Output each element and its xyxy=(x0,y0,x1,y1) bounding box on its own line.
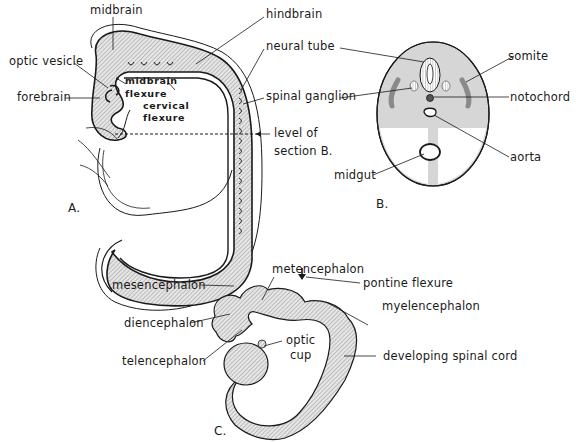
label-midgut: midgut xyxy=(334,170,376,182)
label-somite: somite xyxy=(508,51,548,63)
label-myelencephalon: myelencephalon xyxy=(382,301,480,313)
panel-b-cross-section xyxy=(340,42,514,186)
label-level-of-line1: level of xyxy=(274,128,318,140)
label-developing-spinal-cord: developing spinal cord xyxy=(383,351,517,363)
label-cervical-flexure-line1: cervical xyxy=(143,101,189,111)
label-optic-cup-line1: optic xyxy=(286,335,315,347)
label-telencephalon: telencephalon xyxy=(122,356,206,368)
label-aorta: aorta xyxy=(510,152,541,164)
diagram-canvas xyxy=(0,0,576,442)
label-midbrain-flexure-line2: flexure xyxy=(125,89,167,99)
label-diencephalon: diencephalon xyxy=(124,318,204,330)
label-midbrain-flexure-line1: midbrain xyxy=(125,76,178,86)
label-pontine-flexure: pontine flexure xyxy=(363,278,453,290)
label-level-of-line2: section B. xyxy=(274,146,333,158)
label-metencephalon: metencephalon xyxy=(272,264,364,276)
label-neural-tube: neural tube xyxy=(266,41,335,53)
label-cervical-flexure-line2: flexure xyxy=(143,113,185,123)
panel-label-a: A. xyxy=(68,202,80,214)
label-spinal-ganglion: spinal ganglion xyxy=(266,91,356,103)
label-mesencephalon: mesencephalon xyxy=(112,280,206,292)
label-optic-cup-line2: cup xyxy=(290,350,312,362)
label-optic-vesicle: optic vesicle xyxy=(9,56,83,68)
label-midbrain: midbrain xyxy=(90,5,143,17)
panel-a-embryo xyxy=(65,17,270,310)
panel-label-c: C. xyxy=(214,425,227,437)
label-hindbrain: hindbrain xyxy=(266,9,322,21)
panel-label-b: B. xyxy=(376,198,388,210)
label-forebrain: forebrain xyxy=(17,92,71,104)
label-notochord: notochord xyxy=(510,92,570,104)
